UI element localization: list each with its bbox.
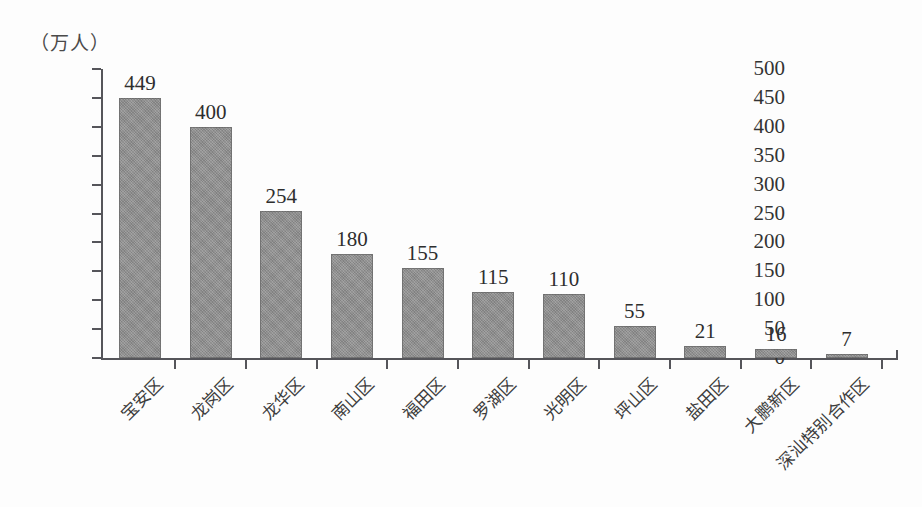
category-label: 光明区 — [537, 370, 592, 425]
category-label: 大鹏新区 — [736, 370, 803, 437]
bar-value-label: 110 — [529, 269, 599, 290]
x-axis-tick — [810, 360, 812, 369]
y-axis-tick — [92, 299, 101, 301]
bar — [260, 211, 302, 358]
y-axis-tick — [92, 97, 101, 99]
category-label: 龙华区 — [254, 370, 309, 425]
bar-value-label: 55 — [600, 301, 670, 322]
x-axis-tick — [386, 360, 388, 369]
y-axis-tick — [92, 328, 101, 330]
plot-area: 500450400350300250200150100500 449400254… — [101, 69, 898, 358]
chart-page: （万人） 500450400350300250200150100500 4494… — [0, 0, 922, 507]
y-axis-unit-caption: （万人） — [30, 28, 110, 55]
category-label: 龙岗区 — [184, 370, 239, 425]
x-axis-tick — [598, 360, 600, 369]
bar-value-label: 21 — [670, 321, 740, 342]
x-axis-tick — [669, 360, 671, 369]
category-label: 罗湖区 — [466, 370, 521, 425]
x-axis-tick — [528, 360, 530, 369]
bar — [119, 98, 161, 358]
y-axis-tick-label: 200 — [725, 231, 785, 252]
y-axis-tick-label: 450 — [725, 87, 785, 108]
y-axis-tick-label: 500 — [725, 58, 785, 79]
bar-value-label: 7 — [812, 329, 882, 350]
bar — [190, 127, 232, 358]
category-label: 宝安区 — [113, 370, 168, 425]
bar-value-label: 155 — [388, 243, 458, 264]
x-axis-tick — [316, 360, 318, 369]
bar — [684, 346, 726, 358]
y-axis-tick-label: 150 — [725, 260, 785, 281]
y-axis-tick — [92, 184, 101, 186]
bar — [331, 254, 373, 358]
bar — [614, 326, 656, 358]
bar — [543, 294, 585, 358]
bar — [826, 354, 868, 358]
y-axis-tick-label: 350 — [725, 145, 785, 166]
y-axis-tick — [92, 270, 101, 272]
bar — [472, 292, 514, 358]
bar-value-label: 16 — [741, 324, 811, 345]
category-label: 南山区 — [325, 370, 380, 425]
bar-value-label: 180 — [317, 229, 387, 250]
category-label: 盐田区 — [678, 370, 733, 425]
bar-value-label: 449 — [105, 73, 175, 94]
x-axis-tick — [740, 360, 742, 369]
y-axis-tick — [92, 241, 101, 243]
x-axis-tick — [174, 360, 176, 369]
y-axis-tick — [92, 357, 101, 359]
bar — [402, 268, 444, 358]
bar-value-label: 254 — [246, 186, 316, 207]
x-axis-tick — [881, 360, 883, 369]
y-axis-line — [101, 69, 103, 358]
category-label: 坪山区 — [607, 370, 662, 425]
bar-value-label: 115 — [458, 267, 528, 288]
x-axis-tick — [457, 360, 459, 369]
x-axis-end-cap — [896, 350, 898, 360]
y-axis-tick-label: 100 — [725, 289, 785, 310]
x-axis-tick — [245, 360, 247, 369]
y-axis-tick — [92, 68, 101, 70]
y-axis-tick-label: 400 — [725, 116, 785, 137]
bar — [755, 349, 797, 358]
y-axis-tick — [92, 213, 101, 215]
y-axis-tick-label: 300 — [725, 174, 785, 195]
y-axis-tick — [92, 155, 101, 157]
category-label: 福田区 — [396, 370, 451, 425]
y-axis-tick — [92, 126, 101, 128]
y-axis-tick-label: 250 — [725, 203, 785, 224]
bar-value-label: 400 — [176, 102, 246, 123]
